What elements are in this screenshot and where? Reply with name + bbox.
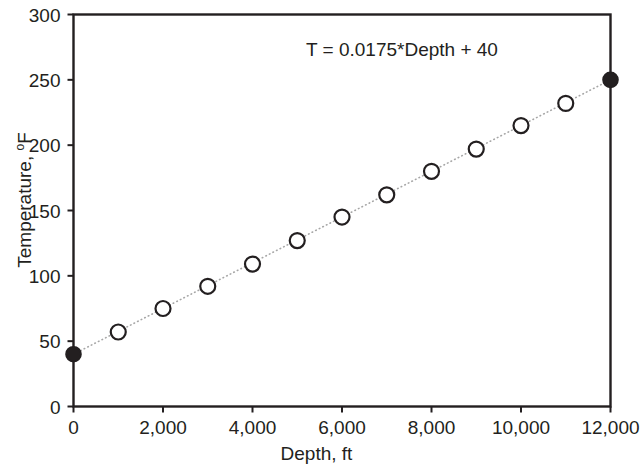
- data-point-marker: [514, 118, 529, 133]
- x-axis-title: Depth, ft: [0, 444, 633, 463]
- x-tick-label: 6,000: [318, 418, 366, 437]
- x-tick-label: 0: [68, 418, 79, 437]
- data-point-marker: [290, 233, 305, 248]
- data-point-marker: [424, 164, 439, 179]
- x-tick-label: 4,000: [229, 418, 277, 437]
- data-point-marker: [245, 257, 260, 272]
- y-axis-title-unit: F: [14, 132, 35, 144]
- data-point-marker: [558, 96, 573, 111]
- data-point-marker: [111, 325, 126, 340]
- data-point-endpoint: [603, 72, 618, 87]
- data-point-marker: [200, 279, 215, 294]
- y-tick-label: 0: [0, 397, 61, 416]
- degree-symbol: o: [13, 144, 27, 151]
- y-tick-label: 250: [0, 70, 61, 89]
- data-point-marker: [379, 187, 394, 202]
- y-tick-label: 300: [0, 5, 61, 24]
- data-point-marker: [469, 142, 484, 157]
- x-tick-label: 8,000: [408, 418, 456, 437]
- x-tick-label: 12,000: [581, 418, 639, 437]
- data-point-marker: [335, 210, 350, 225]
- data-markers: [66, 72, 618, 361]
- equation-annotation: T = 0.0175*Depth + 40: [306, 38, 498, 62]
- x-tick-label: 10,000: [492, 418, 550, 437]
- data-point-endpoint: [66, 347, 81, 362]
- y-tick-label: 50: [0, 332, 61, 351]
- x-tick-label: 2,000: [139, 418, 187, 437]
- data-point-marker: [156, 301, 171, 316]
- y-axis-title-text: Temperature,: [14, 151, 35, 268]
- y-axis-title: Temperature, oF: [14, 90, 34, 310]
